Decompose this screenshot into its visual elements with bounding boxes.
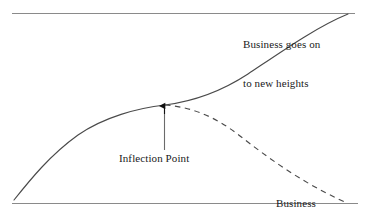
dashed-decline-curve	[165, 105, 347, 203]
growth-annotation-line2: to new heights	[243, 77, 320, 90]
diagram-canvas: Business goes on to new heights Business…	[0, 0, 367, 214]
growth-annotation-line1: Business goes on	[243, 38, 320, 51]
inflection-point-label: Inflection Point	[119, 152, 189, 165]
decline-annotation: Business declines	[276, 171, 316, 214]
decline-annotation-line1: Business	[276, 197, 316, 210]
growth-annotation: Business goes on to new heights	[243, 12, 320, 116]
